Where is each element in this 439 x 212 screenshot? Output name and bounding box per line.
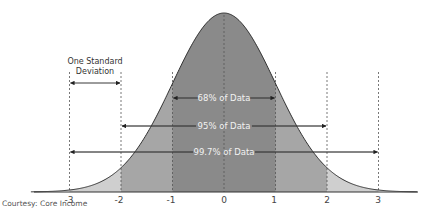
credit-text: Courtesy: Core Income xyxy=(2,199,87,208)
bell-curve-chart xyxy=(0,0,439,212)
label-68-percent: 68% of Data xyxy=(198,93,251,103)
tick-2: 2 xyxy=(324,195,330,205)
tick-1: 1 xyxy=(271,195,277,205)
label-99-7-percent: 99.7% of Data xyxy=(194,147,255,157)
tick-3: 3 xyxy=(375,195,381,205)
tick-neg2: -2 xyxy=(115,195,124,205)
one-sd-line1: One Standard xyxy=(52,57,138,67)
one-sd-line2: Deviation xyxy=(52,67,138,77)
one-standard-deviation-label: One Standard Deviation xyxy=(52,57,138,77)
tick-neg1: -1 xyxy=(167,195,176,205)
tick-0: 0 xyxy=(221,195,227,205)
label-95-percent: 95% of Data xyxy=(198,121,251,131)
